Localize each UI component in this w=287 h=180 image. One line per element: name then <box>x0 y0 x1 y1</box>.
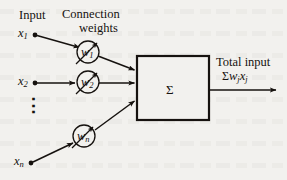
input-heading: Input <box>19 9 45 22</box>
edge-wn-to-summation <box>95 101 135 130</box>
input-terminal-dot-xn <box>29 161 34 166</box>
input-label-x2: x2 <box>18 75 28 89</box>
edge-xn-to-wn <box>33 143 73 162</box>
input-terminal-dot-x1 <box>33 33 38 38</box>
vertical-ellipsis-icon: ⋮ <box>24 100 43 112</box>
output-expression-x-subscript: j <box>245 74 247 84</box>
input-label-xn: xn <box>14 155 24 169</box>
output-heading: Total input <box>216 56 270 69</box>
input-label-x1-subscript: 1 <box>24 31 28 41</box>
output-expression-sigma: Σ <box>222 69 229 83</box>
summation-symbol: Σ <box>166 83 174 96</box>
output-expression: Σwjxj <box>222 70 248 84</box>
figure-canvas: Input Connection weights x1 x2 xn ⋮ w1 w… <box>0 0 287 180</box>
input-label-xn-subscript: n <box>20 159 24 169</box>
weight-label-w1-subscript: 1 <box>89 50 93 60</box>
input-label-x1: x1 <box>18 27 28 41</box>
weight-label-w1: w1 <box>81 46 94 60</box>
input-terminal-dot-x2 <box>33 81 38 86</box>
edge-w1-to-summation <box>98 56 135 70</box>
weight-label-w2: w2 <box>81 76 94 90</box>
neuron-diagram-svg <box>0 0 287 180</box>
weight-label-w2-subscript: 2 <box>89 80 93 90</box>
edge-x1-to-w1 <box>37 36 80 48</box>
weight-label-wn: wn <box>77 130 90 144</box>
connection-weights-heading-line2: weights <box>79 22 118 35</box>
input-label-x2-subscript: 2 <box>24 79 28 89</box>
weight-label-wn-subscript: n <box>85 134 89 144</box>
connection-weights-heading-line1: Connection <box>62 8 120 21</box>
